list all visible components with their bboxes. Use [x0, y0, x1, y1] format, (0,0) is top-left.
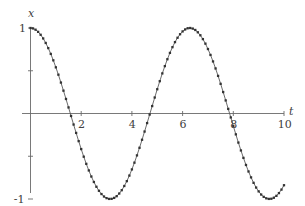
data-point-marker	[156, 88, 158, 90]
data-point-marker	[199, 34, 201, 36]
data-point-marker	[260, 193, 262, 195]
data-point-marker	[116, 195, 118, 197]
data-point-marker	[207, 48, 209, 50]
data-point-marker	[212, 60, 214, 62]
data-point-marker	[184, 28, 186, 30]
data-point-marker	[39, 34, 41, 36]
data-point-marker	[250, 176, 252, 178]
data-point-marker	[105, 197, 107, 199]
y-tick-label: 1	[19, 23, 26, 34]
data-point-marker	[270, 198, 272, 200]
data-point-marker	[240, 149, 242, 151]
data-point-marker	[118, 192, 120, 194]
axis-layer	[22, 27, 284, 199]
data-point-marker	[252, 182, 254, 184]
data-point-marker	[103, 195, 105, 197]
data-point-marker	[161, 72, 163, 74]
data-point-marker	[151, 105, 153, 107]
data-point-marker	[78, 140, 80, 142]
data-point-marker	[149, 113, 151, 115]
data-point-marker	[90, 175, 92, 177]
data-point-marker	[126, 180, 128, 182]
data-point-marker	[263, 196, 265, 198]
x-tick-label: 2	[78, 119, 85, 130]
data-point-marker	[204, 43, 206, 45]
x-tick-label: 4	[129, 119, 136, 130]
data-point-marker	[245, 164, 247, 166]
data-point-marker	[123, 185, 125, 187]
data-point-marker	[32, 27, 34, 29]
data-point-marker	[34, 29, 36, 31]
data-point-marker	[171, 46, 173, 48]
data-point-marker	[100, 193, 102, 195]
data-point-marker	[57, 74, 59, 76]
x-tick-label: 8	[230, 119, 237, 130]
data-point-marker	[154, 96, 156, 98]
data-point-marker	[237, 141, 239, 143]
data-point-marker	[275, 195, 277, 197]
data-point-marker	[166, 58, 168, 60]
data-point-marker	[47, 47, 49, 49]
data-point-marker	[65, 98, 67, 100]
data-point-marker	[242, 157, 244, 159]
data-point-marker	[179, 33, 181, 35]
data-point-marker	[131, 168, 133, 170]
data-point-marker	[62, 90, 64, 92]
y-tick-label: -1	[14, 194, 25, 205]
data-point-marker	[110, 198, 112, 200]
data-point-marker	[278, 192, 280, 194]
data-point-marker	[55, 66, 57, 68]
data-point-marker	[176, 37, 178, 39]
data-point-marker	[141, 139, 143, 141]
data-point-marker	[197, 31, 199, 33]
data-point-marker	[164, 65, 166, 67]
data-point-marker	[268, 198, 270, 200]
data-point-marker	[217, 75, 219, 77]
data-point-marker	[85, 163, 87, 165]
x-tick-label: 6	[180, 119, 187, 130]
plot-canvas	[0, 0, 305, 206]
data-point-marker	[255, 186, 257, 188]
data-point-marker	[280, 188, 282, 190]
data-point-marker	[98, 190, 100, 192]
data-point-marker	[214, 67, 216, 69]
data-point-marker	[187, 27, 189, 29]
data-point-marker	[52, 59, 54, 61]
y-axis-label: x	[28, 8, 34, 19]
data-point-marker	[181, 30, 183, 32]
data-point-marker	[258, 190, 260, 192]
data-point-marker	[95, 186, 97, 188]
data-point-marker	[83, 156, 85, 158]
data-point-marker	[72, 123, 74, 125]
data-point-marker	[222, 91, 224, 93]
data-point-marker	[93, 181, 95, 183]
data-point-marker	[113, 197, 115, 199]
data-point-marker	[88, 169, 90, 171]
data-point-marker	[273, 197, 275, 199]
data-point-marker	[174, 41, 176, 43]
data-point-marker	[169, 52, 171, 54]
x-axis-label: t	[289, 106, 293, 117]
data-point-marker	[159, 80, 161, 82]
data-point-marker	[202, 38, 204, 40]
data-point-marker	[227, 108, 229, 110]
data-point-marker	[75, 132, 77, 134]
data-point-marker	[42, 37, 44, 39]
data-point-marker	[121, 189, 123, 191]
data-point-marker	[189, 27, 191, 29]
data-point-marker	[37, 31, 39, 33]
data-point-marker	[192, 27, 194, 29]
data-point-marker	[60, 81, 62, 83]
data-point-marker	[247, 170, 249, 172]
data-point-marker	[67, 106, 69, 108]
data-point-marker	[29, 27, 31, 29]
plot-figure: 2468101-1 x t	[0, 0, 305, 206]
data-point-marker	[143, 130, 145, 132]
data-point-marker	[80, 148, 82, 150]
data-point-marker	[225, 99, 227, 101]
data-point-marker	[45, 42, 47, 44]
data-point-marker	[219, 83, 221, 85]
data-point-marker	[50, 53, 52, 55]
data-point-marker	[70, 115, 72, 117]
data-point-marker	[133, 162, 135, 164]
